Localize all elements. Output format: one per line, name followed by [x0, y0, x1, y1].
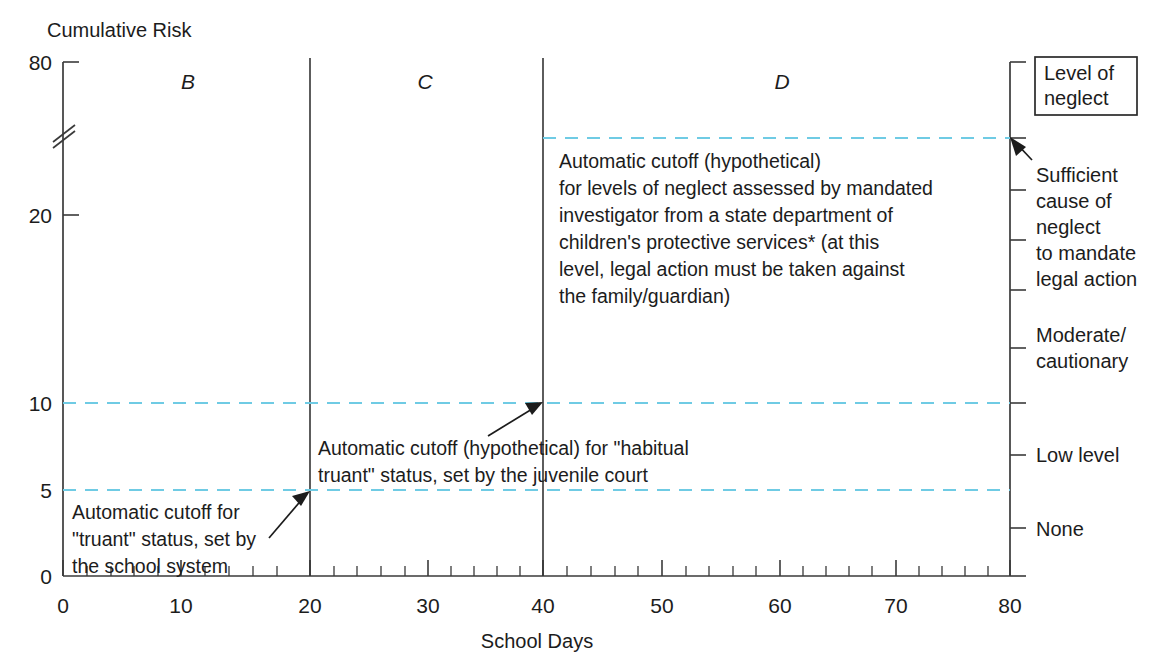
- annotation-neglect-line2: for levels of neglect assessed by mandat…: [559, 177, 933, 199]
- annotation-habitual-truant: Automatic cutoff (hypothetical) for "hab…: [318, 402, 689, 486]
- legend-moderate-line2: cautionary: [1036, 350, 1128, 372]
- x-tick-label-20: 20: [298, 594, 321, 617]
- y-tick-label-10: 10: [29, 392, 52, 415]
- risk-neglect-chart: 80 20 10 5 0 0 10 20 30 40 50 60 70 80 C…: [0, 0, 1161, 663]
- region-label-b: B: [181, 70, 195, 93]
- x-tick-label-70: 70: [884, 594, 907, 617]
- annotation-neglect-line6: the family/guardian): [559, 285, 730, 307]
- x-tick-label-40: 40: [531, 594, 554, 617]
- annotation-neglect-line3: investigator from a state department of: [559, 204, 893, 226]
- legend-level-of-neglect: Level of neglect Sufficient cause of neg…: [1010, 57, 1137, 540]
- x-tick-label-10: 10: [169, 594, 192, 617]
- legend-moderate-line1: Moderate/: [1036, 324, 1126, 346]
- annotation-truant: Automatic cutoff for "truant" status, se…: [72, 491, 310, 577]
- legend-sufficient-line3: neglect: [1036, 216, 1101, 238]
- region-label-c: C: [417, 70, 433, 93]
- legend-sufficient-line1: Sufficient: [1036, 164, 1118, 186]
- y-tick-label-5: 5: [40, 479, 52, 502]
- leader-arrow-habitual-truant: [488, 402, 543, 436]
- annotation-habitual-line1: Automatic cutoff (hypothetical) for "hab…: [318, 437, 689, 459]
- axis-break-mark: [53, 125, 75, 148]
- legend-none: None: [1036, 518, 1084, 540]
- legend-sufficient-line5: legal action: [1036, 268, 1137, 290]
- x-tick-label-0: 0: [57, 594, 69, 617]
- legend-sufficient-line2: cause of: [1036, 190, 1112, 212]
- legend-title-line2: neglect: [1044, 87, 1109, 109]
- annotation-truant-line1: Automatic cutoff for: [72, 501, 240, 523]
- leader-arrow-neglect-cutoff: [1010, 137, 1032, 160]
- region-dividers: [310, 58, 543, 576]
- x-tick-label-80: 80: [998, 594, 1021, 617]
- leader-arrow-truant: [269, 491, 310, 538]
- annotation-neglect-line1: Automatic cutoff (hypothetical): [559, 150, 821, 172]
- x-tick-label-30: 30: [416, 594, 439, 617]
- x-tick-label-50: 50: [650, 594, 673, 617]
- annotation-truant-line2: "truant" status, set by: [72, 528, 256, 550]
- x-axis-title: School Days: [481, 630, 593, 652]
- legend-low-level: Low level: [1036, 444, 1119, 466]
- x-tick-label-60: 60: [768, 594, 791, 617]
- y-tick-label-20: 20: [29, 204, 52, 227]
- y-tick-label-80: 80: [29, 51, 52, 74]
- y-tick-label-0: 0: [40, 565, 52, 588]
- legend-sufficient-line4: to mandate: [1036, 242, 1136, 264]
- annotation-neglect-line4: children's protective services* (at this: [559, 231, 879, 253]
- annotation-neglect-line5: level, legal action must be taken agains…: [559, 258, 905, 280]
- annotation-truant-line3: the school system: [72, 555, 228, 577]
- left-y-axis: [53, 62, 79, 576]
- annotation-neglect-cutoff: Automatic cutoff (hypothetical) for leve…: [559, 150, 933, 307]
- y-axis-title: Cumulative Risk: [47, 19, 192, 41]
- legend-title-line1: Level of: [1044, 62, 1114, 84]
- chart-figure: 80 20 10 5 0 0 10 20 30 40 50 60 70 80 C…: [0, 0, 1161, 663]
- region-label-d: D: [774, 70, 789, 93]
- annotation-habitual-line2: truant" status, set by the juvenile cour…: [318, 464, 649, 486]
